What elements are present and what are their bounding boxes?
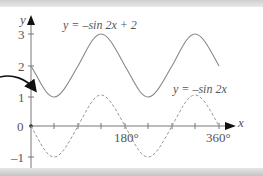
curve2-label: y = –sin 2x <box>172 82 227 96</box>
graph: y x 3 2 1 0 –1 180° 360° y = –sin 2x + 2… <box>0 0 263 176</box>
x-tick-180: 180° <box>114 130 139 145</box>
y-tick-0: 0 <box>17 119 24 134</box>
y-axis-label: y <box>18 12 26 27</box>
x-axis-arrow-icon <box>225 122 236 130</box>
y-tick-3: 3 <box>18 27 25 42</box>
y-tick-1: 1 <box>18 90 25 105</box>
curve1-label: y = –sin 2x + 2 <box>62 18 137 32</box>
y-axis-arrow-icon <box>27 15 35 25</box>
y-tick-neg1: –1 <box>10 150 24 165</box>
y-tick-2: 2 <box>18 59 25 74</box>
x-axis-label: x <box>237 115 244 130</box>
x-tick-360: 360° <box>206 130 231 145</box>
annotation-arrow <box>0 76 35 90</box>
